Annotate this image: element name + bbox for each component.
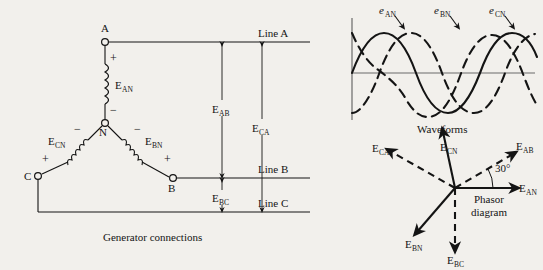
phasor-eca [390, 151, 455, 188]
svg-text:E: E [516, 140, 523, 152]
curve-ean-leader [395, 16, 403, 27]
generator-caption: Generator connections [103, 231, 202, 243]
coil-an-label: E AN [115, 79, 133, 94]
phasor-ecn-label: E CN [440, 141, 458, 156]
coil-cn [68, 140, 89, 165]
svg-text:E: E [405, 238, 412, 250]
coil-cn-minus: − [74, 122, 81, 136]
curve-ean-label: e AN [379, 4, 396, 19]
phasor-eca-label: E CA [372, 142, 390, 157]
phasor-caption-line2: diagram [471, 206, 507, 218]
svg-text:BC: BC [454, 260, 464, 269]
coil-bn-minus: − [134, 122, 141, 136]
three-phase-generator-figure: A B C N + − E AN − + E BN − + E CN Line … [0, 0, 543, 270]
terminal-a-label: A [101, 22, 109, 34]
neutral-label: N [99, 126, 107, 138]
terminal-b-label: B [168, 182, 175, 194]
coil-an-plus: + [110, 51, 117, 65]
panel-waveforms: e AN e BN e CN Waveforms [352, 4, 537, 135]
dimension-ebc-label: E BC [212, 190, 234, 207]
svg-text:CN: CN [495, 10, 506, 19]
svg-text:BN: BN [152, 141, 163, 150]
svg-text:AB: AB [523, 146, 533, 155]
angle-label-30: 30° [495, 162, 510, 174]
svg-text:e: e [489, 4, 494, 16]
svg-text:E: E [252, 122, 259, 134]
panel-generator-connections: A B C N + − E AN − + E BN − + E CN Line … [24, 22, 310, 243]
phasor-ebn [417, 188, 455, 232]
svg-text:e: e [434, 4, 439, 16]
terminal-a-node [102, 39, 109, 46]
svg-text:E: E [115, 79, 122, 91]
coil-bn-plus: + [164, 152, 171, 166]
svg-text:CA: CA [259, 128, 270, 137]
svg-text:CA: CA [379, 148, 390, 157]
angle-arc-30 [488, 169, 493, 188]
svg-text:CN: CN [55, 141, 66, 150]
phasor-ebc-label: E BC [447, 254, 464, 269]
curve-ecn-leader [505, 16, 513, 27]
terminal-c-label: C [24, 170, 31, 182]
coil-cn-plus: + [42, 152, 49, 166]
svg-text:E: E [447, 254, 454, 266]
phasor-ean-label: E AN [519, 182, 537, 197]
phasor-eab-label: E AB [516, 140, 533, 155]
panel-phasor-diagram: E AN E AB 30° E CN E CA E BN [372, 132, 537, 269]
svg-text:E: E [145, 135, 152, 147]
svg-text:AB: AB [219, 109, 229, 118]
svg-text:CN: CN [447, 147, 458, 156]
lead-n-to-coil-bn [108, 126, 122, 140]
line-b-label: Line B [258, 163, 288, 175]
coil-an-minus: − [110, 103, 117, 117]
svg-text:AN: AN [122, 85, 133, 94]
coil-bn-label: E BN [145, 135, 163, 150]
svg-text:BN: BN [412, 244, 423, 253]
svg-text:BC: BC [219, 198, 229, 207]
svg-text:BN: BN [440, 10, 451, 19]
curve-ebn-label: e BN [434, 4, 451, 19]
dimension-eca-label: E CA [252, 119, 274, 137]
svg-text:AN: AN [526, 188, 537, 197]
terminal-c-node [35, 173, 42, 180]
svg-text:E: E [440, 141, 447, 153]
line-a-label: Line A [258, 27, 288, 39]
svg-text:e: e [379, 4, 384, 16]
phasor-ebn-label: E BN [405, 238, 423, 253]
svg-text:E: E [519, 182, 526, 194]
curve-ebn-leader [450, 16, 458, 27]
svg-text:E: E [212, 103, 219, 115]
svg-text:E: E [48, 135, 55, 147]
svg-text:AN: AN [385, 10, 396, 19]
phasor-caption-line1: Phasor [474, 193, 504, 205]
curve-ecn-label: e CN [489, 4, 506, 19]
coil-bn [122, 140, 143, 165]
coil-cn-label: E CN [48, 135, 66, 150]
line-c-label: Line C [258, 197, 288, 209]
coil-an [105, 64, 109, 104]
svg-text:E: E [372, 142, 379, 154]
figure-canvas: A B C N + − E AN − + E BN − + E CN Line … [0, 0, 543, 270]
dimension-eab-label: E AB [212, 100, 234, 118]
terminal-b-node [170, 175, 177, 182]
svg-text:E: E [212, 192, 219, 204]
